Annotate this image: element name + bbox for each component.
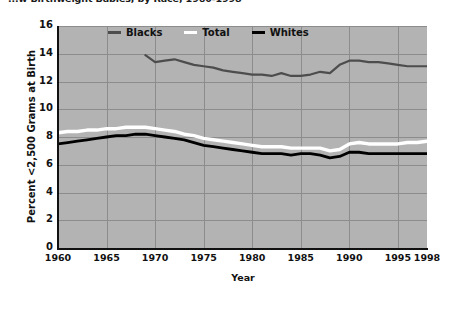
chart-figure: ...w Birthweight Babies, by Race, 1960-1… bbox=[0, 0, 460, 311]
legend-item-total: Total bbox=[184, 27, 229, 38]
x-axis-label: Year bbox=[231, 272, 255, 283]
x-tick-label: 1985 bbox=[288, 252, 314, 263]
x-axis-line bbox=[57, 248, 428, 250]
y-axis-line bbox=[57, 26, 59, 249]
series-line-blacks bbox=[145, 55, 427, 76]
plot-area bbox=[58, 26, 427, 248]
x-tick-label: 1965 bbox=[93, 252, 119, 263]
legend: BlacksTotalWhites bbox=[108, 27, 309, 38]
x-tick-label: 1970 bbox=[142, 252, 168, 263]
x-tick-label: 1960 bbox=[45, 252, 71, 263]
y-tick-label: 0 bbox=[5, 241, 53, 252]
line-swatch-icon bbox=[252, 31, 265, 34]
x-tick-label: 1975 bbox=[190, 252, 216, 263]
series-line-total bbox=[58, 127, 427, 151]
series-layer bbox=[58, 26, 427, 248]
x-tick-label: 1995 bbox=[385, 252, 411, 263]
x-tick-label: 1980 bbox=[239, 252, 265, 263]
legend-item-whites: Whites bbox=[252, 27, 309, 38]
x-tick-label: 1998 bbox=[414, 252, 440, 263]
line-swatch-icon bbox=[108, 31, 121, 34]
legend-item-blacks: Blacks bbox=[108, 27, 162, 38]
legend-label: Total bbox=[202, 27, 229, 38]
y-tick-label: 16 bbox=[5, 19, 53, 30]
y-axis-label: Percent <2,500 Grams at Birth bbox=[26, 37, 37, 237]
legend-label: Blacks bbox=[126, 27, 162, 38]
x-tick-label: 1990 bbox=[336, 252, 362, 263]
series-line-whites bbox=[58, 134, 427, 158]
legend-label: Whites bbox=[270, 27, 309, 38]
line-swatch-icon bbox=[184, 31, 197, 34]
